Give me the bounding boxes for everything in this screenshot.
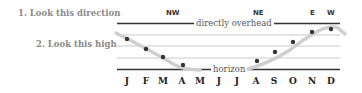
month-label: D xyxy=(324,76,338,86)
month-label: A xyxy=(249,76,263,86)
month-label: J xyxy=(230,76,244,86)
month-label: S xyxy=(267,76,281,86)
month-label: M xyxy=(193,76,207,86)
month-label: J xyxy=(120,76,134,86)
month-label: J xyxy=(212,76,226,86)
month-label: A xyxy=(175,76,189,86)
horizon-label: horizon xyxy=(211,64,247,74)
month-label: M xyxy=(156,76,170,86)
month-label: O xyxy=(286,76,300,86)
month-label: F xyxy=(139,76,153,86)
overhead-label: directly overhead xyxy=(194,18,274,28)
month-label: N xyxy=(305,76,319,86)
